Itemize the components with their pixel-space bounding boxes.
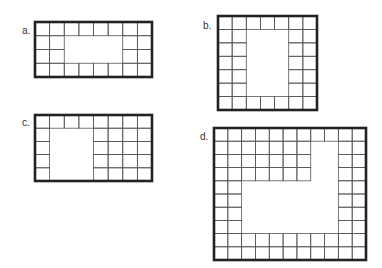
grid-cell [108, 141, 123, 154]
grid-cell [218, 70, 232, 83]
grid-cell [283, 168, 297, 181]
grid-cell [352, 247, 366, 260]
grid-cell [269, 247, 283, 260]
grid-cell [338, 247, 352, 260]
grid-cell [232, 16, 246, 29]
grid-cell [289, 16, 303, 29]
grid-cell [137, 115, 152, 128]
grid-cell [338, 194, 352, 207]
grid-cell [297, 154, 311, 167]
grid-cell [214, 234, 228, 247]
grid-cell [218, 97, 232, 110]
grid-cell [228, 168, 242, 181]
grid-cell [218, 29, 232, 42]
grid-cell [214, 168, 228, 181]
grid-cell [123, 50, 138, 64]
grid-cell [311, 128, 325, 141]
grid-cell [218, 83, 232, 96]
grid-cell [137, 50, 152, 64]
grid-cell [338, 168, 352, 181]
grid-cell [218, 56, 232, 69]
grid-cell [255, 168, 269, 181]
grid-cell [35, 168, 50, 181]
grid-cell [352, 141, 366, 154]
grid-cell [352, 207, 366, 220]
grid-cell [214, 141, 228, 154]
grid-cell [137, 141, 152, 154]
grid-cell [228, 234, 242, 247]
grid-cell [35, 22, 50, 36]
grid-cell [246, 16, 260, 29]
grid-cell [338, 220, 352, 233]
grid-cell [108, 63, 123, 77]
grid-cell [123, 115, 138, 128]
grid-cell [108, 168, 123, 181]
grid-cell [338, 234, 352, 247]
grid-cell [108, 128, 123, 141]
grid-cell [35, 141, 50, 154]
grid-cell [289, 56, 303, 69]
grid-cell [283, 247, 297, 260]
grid-cell [352, 194, 366, 207]
grid-frame [218, 16, 317, 110]
grid-cell [123, 63, 138, 77]
grid-cell [94, 115, 109, 128]
grid-cell [64, 115, 79, 128]
grid-cell [242, 234, 256, 247]
grid-cell [232, 97, 246, 110]
grid-cell [108, 155, 123, 168]
grid-cell [242, 128, 256, 141]
grid-cell [255, 154, 269, 167]
grid-cell [289, 70, 303, 83]
grid-cell [260, 97, 274, 110]
grid-b [218, 16, 317, 110]
grid-cell [338, 154, 352, 167]
grid-cell [108, 115, 123, 128]
grid-cell [137, 155, 152, 168]
grid-cell [64, 63, 79, 77]
grid-cell [214, 247, 228, 260]
figure-b-label: b. [203, 20, 211, 31]
grid-cell [283, 141, 297, 154]
grid-cell [79, 63, 94, 77]
grid-cell [50, 50, 65, 64]
grid-cell [35, 36, 50, 50]
grid-cell [289, 43, 303, 56]
grid-cell [338, 207, 352, 220]
grid-cell [297, 247, 311, 260]
grid-cell [289, 29, 303, 42]
grid-cell [218, 43, 232, 56]
grid-cell [297, 141, 311, 154]
grid-cell [232, 43, 246, 56]
grid-cell [242, 154, 256, 167]
figure-a-label: a. [22, 25, 30, 36]
grid-cell [123, 155, 138, 168]
grid-cell [228, 220, 242, 233]
grid-cell [303, 97, 317, 110]
grid-cell [303, 43, 317, 56]
grid-c [35, 115, 152, 181]
grid-cell [108, 22, 123, 36]
grid-cell [275, 97, 289, 110]
grid-cell [303, 56, 317, 69]
grid-cell [94, 128, 109, 141]
grid-cell [228, 154, 242, 167]
grid-cell [123, 141, 138, 154]
grid-cell [214, 128, 228, 141]
grid-cell [228, 194, 242, 207]
grid-cell [228, 128, 242, 141]
grid-cell [352, 234, 366, 247]
grid-cell [50, 22, 65, 36]
grid-cell [123, 36, 138, 50]
grid-cell [123, 168, 138, 181]
grid-cell [338, 181, 352, 194]
grid-cell [311, 234, 325, 247]
grid-cell [283, 154, 297, 167]
grid-cell [232, 56, 246, 69]
grid-cell [255, 128, 269, 141]
grid-cell [303, 70, 317, 83]
grid-cell [35, 155, 50, 168]
grid-cell [123, 22, 138, 36]
grid-d [214, 128, 366, 260]
grid-cell [79, 115, 94, 128]
